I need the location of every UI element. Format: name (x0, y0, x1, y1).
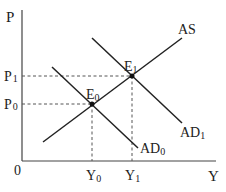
as-ad-diagram: P Y 0 P1 P0 Y0 Y1 E0 E1 AS AD0 AD1 (0, 0, 226, 192)
y1-label: Y1 (125, 168, 140, 184)
p1-label: P1 (4, 69, 18, 84)
y0-label: Y0 (86, 168, 101, 184)
origin-label: 0 (14, 163, 21, 178)
as-label: AS (178, 22, 196, 37)
ad1-curve (92, 38, 182, 123)
ad0-label: AD0 (140, 141, 165, 157)
ad1-label: AD1 (180, 125, 205, 141)
e0-label: E0 (86, 87, 100, 103)
p0-label: P0 (4, 97, 18, 112)
e1-label: E1 (124, 59, 138, 75)
x-axis-label: Y (208, 168, 219, 184)
ad0-curve (52, 67, 138, 148)
y-axis-label: P (6, 9, 14, 25)
as-curve (43, 38, 182, 142)
